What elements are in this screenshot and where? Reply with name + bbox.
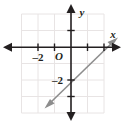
y-axis [67,4,76,121]
y-axis-arrow-up-icon [67,4,76,13]
x-axis-tick-label: –2 [32,51,45,63]
y-axis-label: y [78,6,85,18]
x-axis-arrow-left-icon [3,43,12,52]
x-axis-arrow-right-icon [112,43,121,52]
origin-label: O [55,50,63,62]
y-axis-arrow-down-icon [67,112,76,121]
x-axis-label: x [109,28,116,40]
y-axis-tick-label: –2 [51,74,64,86]
plot-series-line [45,38,119,109]
graph-canvas: –2 –2 O x y [0,0,128,125]
coordinate-plane-figure: –2 –2 O x y [0,0,128,125]
